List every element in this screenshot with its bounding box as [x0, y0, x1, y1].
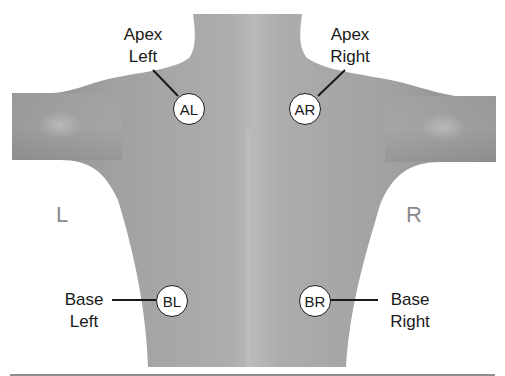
- label-base-right: Base Right: [382, 289, 438, 333]
- side-label-right: R: [406, 203, 422, 227]
- label-apex-left-line2: Left: [115, 46, 171, 68]
- label-base-left-line2: Left: [56, 311, 112, 333]
- label-base-right-line1: Base: [382, 289, 438, 311]
- side-label-left: L: [56, 203, 68, 227]
- label-base-left: Base Left: [56, 289, 112, 333]
- label-apex-right-line2: Right: [322, 46, 378, 68]
- label-base-left-line1: Base: [56, 289, 112, 311]
- badge-apex-right: AR: [289, 93, 321, 125]
- label-apex-left-line1: Apex: [115, 24, 171, 46]
- label-apex-right: Apex Right: [322, 24, 378, 68]
- badge-apex-left: AL: [173, 93, 205, 125]
- badge-base-left: BL: [156, 285, 188, 317]
- label-apex-left: Apex Left: [115, 24, 171, 68]
- label-apex-right-line1: Apex: [322, 24, 378, 46]
- torso-diagram: L R Apex Left AL Apex Right AR Base Left…: [0, 0, 505, 376]
- label-base-right-line2: Right: [382, 311, 438, 333]
- badge-base-right: BR: [299, 285, 331, 317]
